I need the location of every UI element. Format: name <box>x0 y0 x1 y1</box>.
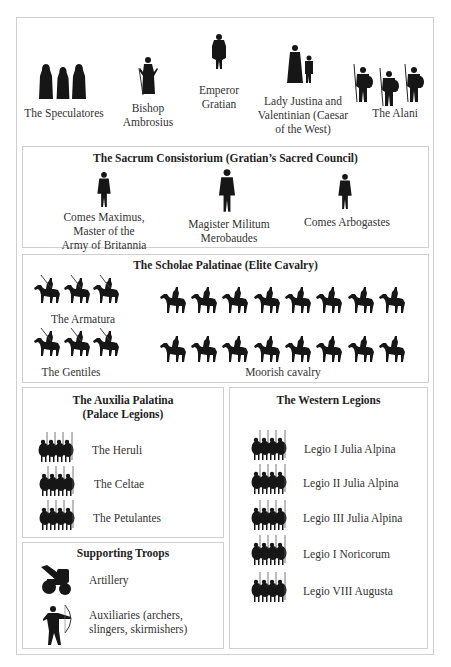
label-maximus-2: Master of the <box>43 224 165 238</box>
auxilia-title-1: The Auxilia Palatina <box>23 393 223 407</box>
label-arbogastes: Comes Arbogastes <box>293 215 401 229</box>
infantry-block-icon <box>250 535 290 565</box>
label-justina-1: Lady Justina and <box>250 94 356 108</box>
gentiles-horsemen-icon <box>32 326 124 358</box>
label-maximus-1: Comes Maximus, <box>43 210 165 224</box>
consistorium-title: The Sacrum Consistorium (Gratian’s Sacre… <box>23 151 428 165</box>
label-auxiliaries-1: Auxiliaries (archers, <box>89 608 183 622</box>
label-moorish-cavalry: Moorish cavalry <box>223 365 343 379</box>
soldier-icon <box>217 168 237 214</box>
label-gratian-2: Gratian <box>186 97 252 111</box>
label-ambrosius-2: Ambrosius <box>114 115 182 129</box>
label-petulantes: The Petulantes <box>93 511 161 525</box>
infantry-block-icon <box>250 464 290 494</box>
label-legio-4: Legio I Noricorum <box>303 547 390 561</box>
emperor-icon <box>210 34 228 72</box>
moorish-horsemen-row-2-icon <box>158 334 410 366</box>
auxilia-title-2: (Palace Legions) <box>23 407 223 421</box>
label-legio-3: Legio III Julia Alpina <box>303 511 402 525</box>
western-legions-box: The Western Legions Legio I Julia Alpina… <box>229 387 428 649</box>
label-ambrosius-1: Bishop <box>114 101 182 115</box>
woman-and-child-icon <box>286 44 318 86</box>
label-alani: The Alani <box>362 106 428 120</box>
label-merobaudes-2: Merobaudes <box>173 231 285 245</box>
infantry-block-icon <box>37 432 77 462</box>
artillery-icon <box>39 563 73 597</box>
moorish-horsemen-row-1-icon <box>158 285 410 317</box>
label-legio-1: Legio I Julia Alpina <box>304 442 396 456</box>
label-armatura: The Armatura <box>33 312 133 326</box>
infantry-block-icon <box>250 430 290 460</box>
scholae-box: The Scholae Palatinae (Elite Cavalry) Th… <box>22 254 429 383</box>
label-speculatores: The Speculatores <box>18 106 110 120</box>
archer-icon <box>41 603 75 647</box>
western-legions-title: The Western Legions <box>230 393 427 407</box>
armatura-horsemen-icon <box>32 273 124 305</box>
infantry-block-icon <box>250 500 290 530</box>
label-legio-5: Legio VIII Augusta <box>303 584 393 598</box>
label-artillery: Artillery <box>89 573 129 587</box>
consistorium-box: The Sacrum Consistorium (Gratian’s Sacre… <box>22 146 429 248</box>
infantry-block-icon <box>38 466 78 496</box>
spearmen-icon <box>352 62 428 108</box>
label-celtae: The Celtae <box>94 477 144 491</box>
supporting-title: Supporting Troops <box>23 546 223 560</box>
infantry-block-icon <box>38 500 78 530</box>
label-gentiles: The Gentiles <box>23 365 119 379</box>
auxilia-box: The Auxilia Palatina (Palace Legions) Th… <box>22 387 224 538</box>
label-heruli: The Heruli <box>92 443 142 457</box>
label-auxiliaries-2: slingers, skirmishers) <box>89 622 187 636</box>
label-maximus-3: Army of Britannia <box>43 238 165 252</box>
soldier-icon <box>95 171 113 209</box>
infantry-block-icon <box>250 572 290 602</box>
label-legio-2: Legio II Julia Alpina <box>303 476 399 490</box>
label-merobaudes-1: Magister Militum <box>173 217 285 231</box>
cloaked-guards-icon <box>39 63 87 101</box>
bishop-icon <box>134 56 162 98</box>
supporting-box: Supporting Troops Artillery Auxiliaries … <box>22 542 224 649</box>
soldier-icon <box>337 173 353 211</box>
scholae-title: The Scholae Palatinae (Elite Cavalry) <box>23 258 428 272</box>
label-justina-3: of the West) <box>250 122 356 136</box>
label-justina-2: Valentinian (Caesar <box>250 108 356 122</box>
label-gratian-1: Emperor <box>186 83 252 97</box>
